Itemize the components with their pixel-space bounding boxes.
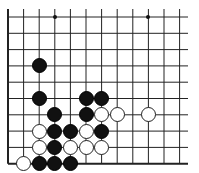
black-stone[interactable] <box>63 156 78 171</box>
white-stone[interactable] <box>79 124 94 139</box>
go-board[interactable] <box>0 0 199 173</box>
white-stone[interactable] <box>110 107 125 122</box>
white-stone[interactable] <box>32 140 47 155</box>
black-stone[interactable] <box>32 58 47 73</box>
black-stone[interactable] <box>63 124 78 139</box>
black-stone[interactable] <box>47 124 62 139</box>
black-stone[interactable] <box>94 124 109 139</box>
white-stone[interactable] <box>63 140 78 155</box>
black-stone[interactable] <box>79 91 94 106</box>
white-stone[interactable] <box>94 140 109 155</box>
star-point-icon <box>53 15 57 19</box>
white-stone[interactable] <box>79 140 94 155</box>
black-stone[interactable] <box>94 91 109 106</box>
black-stone[interactable] <box>32 156 47 171</box>
black-stone[interactable] <box>79 107 94 122</box>
white-stone[interactable] <box>32 124 47 139</box>
black-stone[interactable] <box>32 91 47 106</box>
